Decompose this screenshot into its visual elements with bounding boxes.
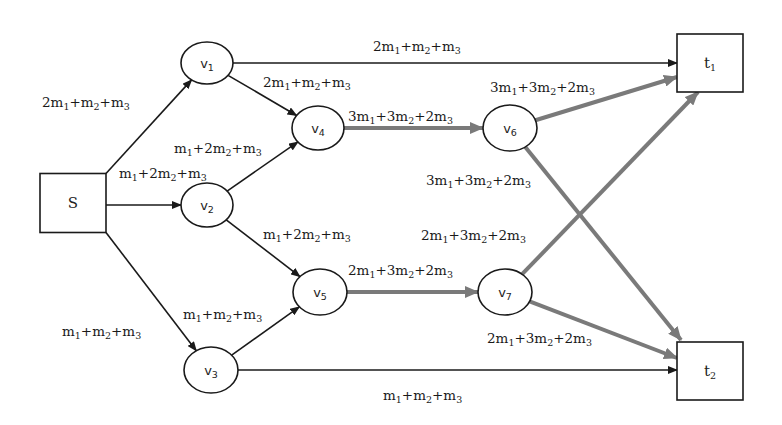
edge-label: m1+2m2+m3 — [174, 140, 262, 158]
node-S: S — [40, 174, 106, 233]
edge-label: m1+m2+m3 — [62, 323, 141, 341]
edge-label: 2m1+m2+m3 — [42, 94, 130, 112]
node-v7: v7 — [478, 269, 532, 315]
edge-label: 3m1+3m2+2m3 — [426, 172, 531, 190]
edge-label: m1+m2+m3 — [383, 387, 462, 405]
edge-label: 2m1+m2+m3 — [263, 74, 351, 92]
node-v4: v4 — [292, 106, 344, 150]
edge-labels-layer: 2m1+m2+m3m1+2m2+m3m1+m2+m32m1+m2+m32m1+m… — [42, 38, 595, 405]
node-v6: v6 — [483, 105, 537, 151]
edge-v7-t1 — [522, 92, 698, 274]
node-v2: v2 — [181, 183, 233, 227]
edge-label: 2m1+m2+m3 — [373, 38, 461, 56]
node-v3: v3 — [184, 347, 238, 393]
edge-label: m1+m2+m3 — [183, 306, 262, 324]
node-t1: t1 — [677, 34, 743, 92]
edge-label: 2m1+3m2+2m3 — [348, 262, 453, 280]
edge-label: m1+2m2+m3 — [263, 226, 351, 244]
edge-label: 3m1+3m2+2m3 — [348, 108, 453, 126]
edge-label: 2m1+3m2+2m3 — [421, 227, 526, 245]
edge-label: m1+2m2+m3 — [119, 165, 207, 183]
node-v1: v1 — [181, 42, 233, 84]
node-label-S: S — [68, 194, 78, 212]
node-t2: t2 — [677, 342, 743, 400]
flow-diagram: Sv1v2v3v4v5v6v7t1t2 2m1+m2+m3m1+2m2+m3m1… — [0, 0, 782, 425]
edge-label: 3m1+3m2+2m3 — [490, 79, 595, 97]
edge-v6-t2 — [525, 147, 681, 340]
node-v5: v5 — [293, 269, 347, 315]
edge-label: 2m1+3m2+2m3 — [487, 330, 592, 348]
